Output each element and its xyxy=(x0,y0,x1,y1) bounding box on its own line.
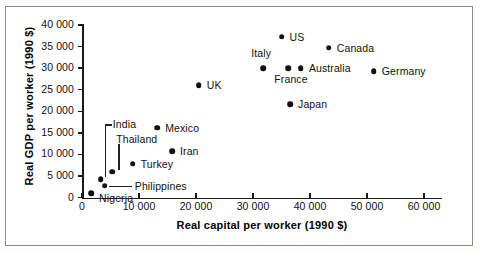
data-point-label-philippines: Philippines xyxy=(135,180,187,192)
data-point-nigeria xyxy=(88,190,94,196)
data-point-label-india: India xyxy=(113,118,136,130)
data-point-germany xyxy=(371,68,377,74)
y-tick-mark xyxy=(78,89,83,91)
y-tick-label: 25 000 xyxy=(41,83,74,95)
x-tick-mark xyxy=(138,193,140,198)
data-point-india xyxy=(98,177,104,183)
data-point-japan xyxy=(287,102,293,108)
data-point-label-turkey: Turkey xyxy=(141,158,173,170)
data-point-label-uk: UK xyxy=(207,79,222,91)
data-point-us xyxy=(279,34,285,40)
data-point-mexico xyxy=(154,125,160,131)
y-tick-label: 0 xyxy=(68,191,74,203)
y-axis-title: Real GDP per worker (1990 $) xyxy=(23,16,35,196)
data-point-uk xyxy=(196,83,202,89)
plot-area: 05 00010 00015 00020 00025 00030 00035 0… xyxy=(0,0,480,254)
x-tick-mark xyxy=(423,193,425,198)
x-tick-mark xyxy=(195,193,197,198)
data-point-canada xyxy=(326,45,332,51)
y-tick-label: 15 000 xyxy=(41,126,74,138)
data-point-label-canada: Canada xyxy=(337,42,374,54)
data-point-label-australia: Australia xyxy=(309,62,351,74)
y-tick-label: 10 000 xyxy=(41,147,74,159)
data-point-label-thailand: Thailand xyxy=(116,133,157,145)
y-tick-label: 20 000 xyxy=(41,104,74,116)
y-tick-label: 40 000 xyxy=(41,18,74,30)
data-point-france xyxy=(286,65,292,71)
data-point-label-mexico: Mexico xyxy=(165,122,199,134)
y-tick-mark xyxy=(78,154,83,156)
x-axis-line xyxy=(82,198,442,200)
leader-line-v-india xyxy=(105,124,106,177)
x-tick-label: 50 000 xyxy=(351,200,384,212)
data-point-philippines xyxy=(102,183,108,189)
x-tick-label: 40 000 xyxy=(294,200,327,212)
data-point-australia xyxy=(298,65,304,71)
data-point-turkey xyxy=(130,161,136,167)
y-tick-label: 35 000 xyxy=(41,40,74,52)
y-tick-mark xyxy=(78,67,83,69)
y-tick-mark xyxy=(78,175,83,177)
x-tick-label: 60 000 xyxy=(408,200,441,212)
x-tick-mark xyxy=(366,193,368,198)
data-point-label-iran: Iran xyxy=(180,145,199,157)
data-point-label-italy: Italy xyxy=(251,47,271,59)
y-tick-mark xyxy=(78,111,83,113)
x-tick-mark xyxy=(81,193,83,198)
data-point-iran xyxy=(169,149,175,155)
y-tick-mark xyxy=(78,24,83,26)
data-point-label-france: France xyxy=(274,73,307,85)
data-point-label-us: US xyxy=(290,31,305,43)
figure-scatter-gdp-vs-capital: 05 00010 00015 00020 00025 00030 00035 0… xyxy=(0,0,480,254)
x-tick-label: 0 xyxy=(79,200,85,212)
x-tick-label: 30 000 xyxy=(237,200,270,212)
leader-line-philippines xyxy=(109,186,132,187)
data-point-label-nigeria: Nigeria xyxy=(99,192,133,204)
x-tick-mark xyxy=(252,193,254,198)
x-axis-title: Real capital per worker (1990 $) xyxy=(82,219,442,231)
leader-line-thailand xyxy=(118,144,119,170)
y-tick-mark xyxy=(78,46,83,48)
x-tick-label: 20 000 xyxy=(180,200,213,212)
x-tick-mark xyxy=(309,193,311,198)
data-point-label-japan: Japan xyxy=(298,98,327,110)
y-tick-mark xyxy=(78,132,83,134)
data-point-label-germany: Germany xyxy=(382,65,426,77)
y-tick-label: 30 000 xyxy=(41,61,74,73)
data-point-italy xyxy=(260,65,266,71)
y-tick-label: 5 000 xyxy=(47,169,74,181)
data-point-thailand xyxy=(109,169,115,175)
